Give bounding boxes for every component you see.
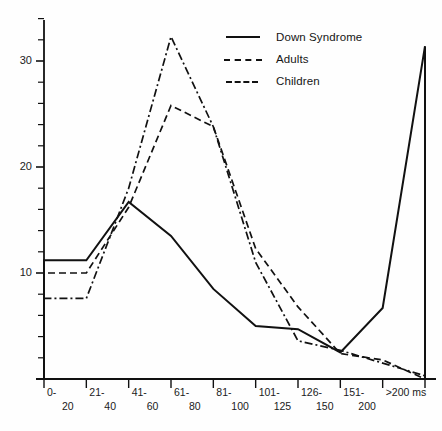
legend-label: Down Syndrome — [276, 31, 362, 43]
y-axis-label: 20 — [6, 160, 32, 172]
legend-item-adults: Adults — [222, 48, 394, 70]
x-axis-label-bottom: 20 — [62, 400, 74, 412]
x-axis-label-bottom: 125 — [274, 400, 292, 412]
x-axis-label-top: >200 ms — [386, 386, 427, 398]
dashed-line-key — [222, 76, 262, 86]
legend-item-down-syndrome: Down Syndrome — [222, 26, 394, 48]
solid-line-key — [222, 32, 262, 42]
x-axis-label-top: 81- — [216, 386, 231, 398]
series-path — [44, 46, 425, 379]
x-axis-label-bottom: 40 — [104, 400, 116, 412]
x-axis-label-top: 21- — [89, 386, 104, 398]
chart-legend: Down Syndrome Adults Children — [222, 26, 394, 92]
x-axis-label-top: 61- — [174, 386, 189, 398]
x-axis-label-top: 0- — [47, 386, 56, 398]
legend-item-children: Children — [222, 70, 394, 92]
x-axis-label-bottom: 60 — [147, 400, 159, 412]
series-children — [44, 106, 425, 379]
y-axis-label: 10 — [6, 266, 32, 278]
x-axis-label-top: 126- — [301, 386, 322, 398]
plot-area: 302010 0-21-41-61-81-101-126-151->200 ms… — [0, 0, 442, 431]
x-axis-label-bottom: 150 — [316, 400, 334, 412]
y-axis-label: 30 — [6, 54, 32, 66]
dash-dot-line-key — [222, 54, 262, 64]
series-path — [44, 106, 425, 379]
chart-figure: 302010 0-21-41-61-81-101-126-151->200 ms… — [0, 0, 442, 431]
x-axis-label-bottom: 80 — [189, 400, 201, 412]
series-down-syndrome — [44, 46, 425, 379]
x-axis-label-bottom: 100 — [231, 400, 249, 412]
x-axis-label-top: 101- — [259, 386, 280, 398]
y-axis-ticks — [36, 19, 44, 358]
legend-label: Children — [276, 75, 320, 87]
legend-label: Adults — [276, 53, 309, 65]
x-axis-label-bottom: 200 — [358, 400, 376, 412]
x-axis-label-top: 41- — [132, 386, 147, 398]
x-axis-label-top: 151- — [343, 386, 364, 398]
